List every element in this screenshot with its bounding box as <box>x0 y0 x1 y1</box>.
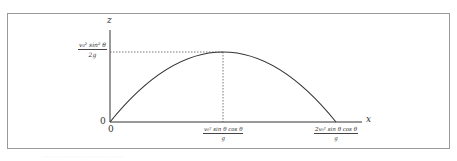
peak-x-denominator: g <box>221 134 225 141</box>
max-height-denominator: 2g <box>89 50 97 58</box>
max-height-label: v₀² sin² θ 2g <box>78 41 107 58</box>
peak-x-label: v₀² sin θ cos θ g <box>203 126 243 141</box>
range-label: 2v₀² sin θ cos θ g <box>314 126 358 141</box>
range-numerator: 2v₀² sin θ cos θ <box>314 126 358 134</box>
max-height-numerator: v₀² sin² θ <box>78 41 107 50</box>
origin-x-label: 0 <box>108 125 114 134</box>
figure-caption: ·································· <box>42 153 124 160</box>
peak-x-numerator: v₀² sin θ cos θ <box>203 126 243 134</box>
range-denominator: g <box>334 134 338 141</box>
z-axis-label: z <box>107 16 112 25</box>
x-axis-label: x <box>366 115 371 124</box>
origin-z-label: 0 <box>100 117 106 126</box>
